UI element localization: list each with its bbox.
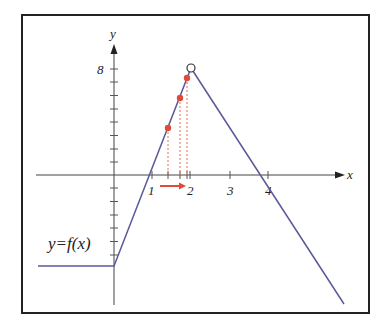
y-tick-8: 8 (97, 62, 104, 77)
x-axis-label: x (346, 167, 353, 182)
frame (22, 15, 369, 313)
y-axis-label: y (108, 26, 116, 41)
y-axis-arrow-icon (111, 44, 118, 54)
x-tick-3: 3 (226, 183, 234, 198)
x-axis-arrow-icon (335, 172, 345, 179)
open-point (187, 64, 195, 72)
x-tick-2: 2 (187, 183, 194, 198)
dotted-guides (168, 78, 187, 175)
approach-arrow-icon (179, 183, 186, 190)
chart: x y 8 1 2 3 4 (0, 0, 388, 332)
function-label: y=f(x) (46, 234, 91, 253)
x-tick-1: 1 (148, 183, 155, 198)
